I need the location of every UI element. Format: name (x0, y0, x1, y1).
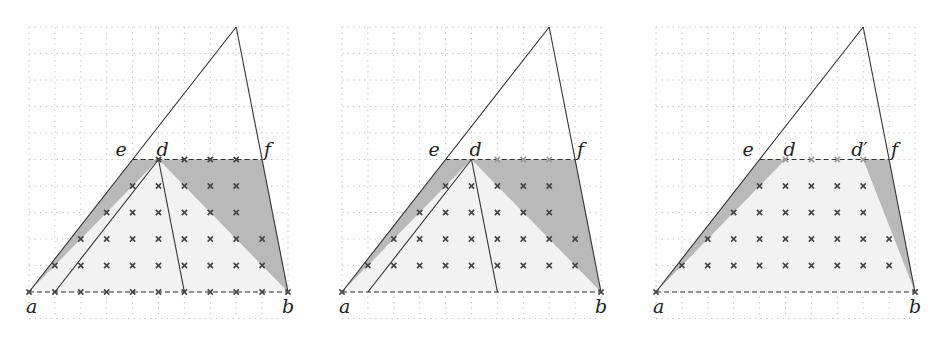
point-label-f: f (889, 138, 901, 160)
point-label-b: b (909, 295, 921, 317)
point-label-b: b (595, 295, 607, 317)
point-label-a: a (26, 295, 37, 317)
panel-3: abedd′f (653, 27, 921, 319)
point-label-a: a (339, 295, 350, 317)
point-label-d-prime: d′ (851, 138, 868, 160)
point-label-d: d (470, 138, 482, 160)
point-label-a: a (653, 295, 664, 317)
point-label-f: f (575, 138, 587, 160)
panel-1: abedf (26, 27, 294, 319)
point-label-e: e (429, 138, 440, 160)
diagram-canvas: abedfabedfabedd′f (0, 0, 945, 339)
panel-2: abedf (339, 27, 607, 319)
point-label-e: e (743, 138, 754, 160)
point-label-e: e (116, 138, 127, 160)
point-label-f: f (262, 138, 274, 160)
point-label-d: d (784, 138, 796, 160)
point-label-b: b (282, 295, 294, 317)
point-label-d: d (157, 138, 169, 160)
